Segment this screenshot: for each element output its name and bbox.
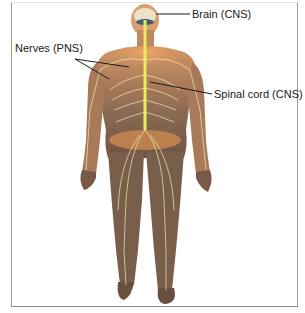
brain-label: Brain (CNS) bbox=[192, 8, 251, 20]
spinal-cord-label: Spinal cord (CNS) bbox=[214, 88, 303, 100]
nerves-label: Nerves (PNS) bbox=[15, 42, 83, 54]
